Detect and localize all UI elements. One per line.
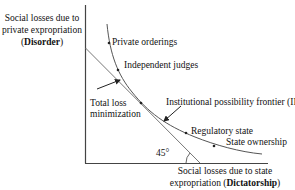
point-regulatory-state (185, 132, 188, 135)
x-axis-label: Social losses due to state expropriation… (155, 165, 295, 189)
label-independent-judges: Independent judges (124, 60, 198, 71)
x-axis-label-line2: expropriation (Dictatorship) (155, 177, 295, 189)
label-angle: 45° (156, 148, 169, 159)
label-total-loss: Total loss minimization (90, 98, 141, 120)
ipf-arrow (164, 106, 181, 121)
label-regulatory-state: Regulatory state (191, 126, 253, 137)
label-state-ownership: State ownership (226, 137, 287, 148)
label-private-orderings: Private orderings (112, 37, 177, 48)
y-axis-label-line3: (Disorder) (2, 36, 82, 48)
point-independent-judges (117, 69, 120, 72)
y-axis-label: Social losses due to private expropriati… (2, 12, 82, 48)
y-axis-label-line1: Social losses due to (2, 12, 82, 24)
label-ipf: Institutional possibility frontier (IPF) (166, 97, 295, 108)
point-state-ownership (213, 145, 216, 148)
y-axis-label-line2: private expropriation (2, 24, 82, 36)
point-private-orderings (108, 42, 111, 45)
total-loss-arrow (97, 80, 120, 89)
angle-arc (186, 153, 190, 163)
x-axis-label-line1: Social losses due to state (155, 165, 295, 177)
